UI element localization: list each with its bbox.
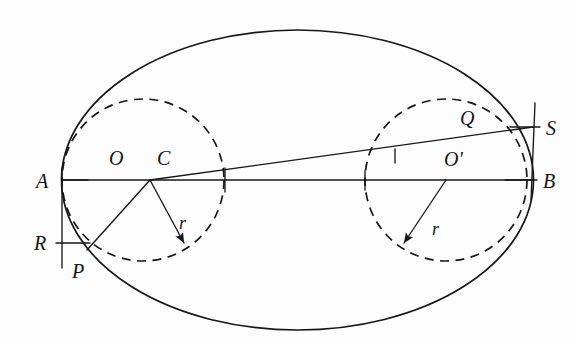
label-q: Q bbox=[460, 107, 475, 129]
label-o: O bbox=[109, 147, 123, 169]
label-p: P bbox=[71, 260, 84, 282]
label-radius-left: r bbox=[179, 213, 187, 233]
geometry-canvas: A B O O' C P Q R S r r bbox=[0, 0, 575, 344]
radius-arrow-left bbox=[150, 180, 184, 243]
geometry-figure: A B O O' C P Q R S r r bbox=[0, 0, 575, 344]
label-a: A bbox=[34, 170, 49, 192]
label-o-prime: O' bbox=[444, 148, 463, 170]
label-s: S bbox=[546, 117, 556, 139]
radius-arrow-right bbox=[404, 180, 446, 243]
label-radius-right: r bbox=[432, 219, 440, 239]
label-r-point: R bbox=[33, 232, 46, 254]
label-b: B bbox=[543, 170, 555, 192]
label-c: C bbox=[157, 147, 171, 169]
